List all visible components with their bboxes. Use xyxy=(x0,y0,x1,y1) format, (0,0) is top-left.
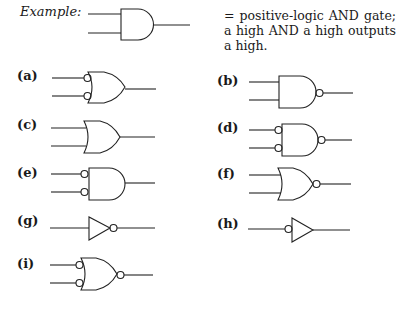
gate-i-nor-inverted-inputs-icon xyxy=(50,258,153,290)
gate-g-inverter-icon xyxy=(50,217,155,240)
example-and-gate-icon xyxy=(88,9,190,40)
gate-h-inverted-input-buffer-icon xyxy=(248,218,350,242)
gate-c-or-icon xyxy=(51,121,155,153)
gate-f-nor-icon xyxy=(249,168,351,200)
gate-a-or-inverted-inputs-icon xyxy=(52,72,156,103)
gate-e-and-inverted-inputs-icon xyxy=(51,168,155,200)
gate-b-nand-icon xyxy=(249,76,353,108)
gate-d-nand-inverted-inputs-icon xyxy=(249,124,352,156)
